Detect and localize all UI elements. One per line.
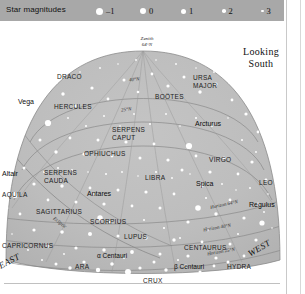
star-alpha-centauri [125,269,131,275]
legend-label-1: 1 [189,6,193,16]
magnitude-dot-0 [140,8,146,14]
page-title: Looking South [243,46,279,70]
sky-dome-shape [6,51,280,274]
star-antares [97,215,102,220]
star-vega [45,120,51,126]
star-spica [195,205,201,211]
sky-chart: Looking South Zenith 64°N 40°N 25°N Hori… [0,22,305,294]
legend-item-magnitude-minus1: –1 [96,0,115,22]
magnitude-dot-3 [261,10,264,13]
frame-divider-right-outer [300,0,301,294]
star-arcturus [186,143,192,149]
title-line-looking: Looking [243,46,279,57]
star-chart-page: Star magnitudes –1 0 1 2 3 [0,0,305,294]
title-line-south: South [243,58,279,70]
magnitude-dot-2 [222,9,226,13]
legend-label-2: 2 [229,6,233,16]
star-beta-centauri [171,274,176,279]
legend-label-0: 0 [149,6,153,16]
magnitude-dot-1 [181,9,186,14]
star-regulus [259,220,264,225]
star-altair [12,192,18,198]
frame-divider-bottom [4,283,280,284]
legend-label-minus1: –1 [106,6,115,16]
legend-title: Star magnitudes [6,5,66,14]
legend-item-magnitude-3: 3 [261,0,271,22]
legend-label-3: 3 [267,6,271,16]
legend-item-magnitude-0: 0 [140,0,153,22]
legend-item-magnitude-1: 1 [181,0,193,22]
legend-item-magnitude-2: 2 [222,0,233,22]
magnitude-dot-minus1 [96,8,103,15]
frame-divider-right [286,0,287,294]
star-magnitude-legend: Star magnitudes –1 0 1 2 3 [0,0,284,22]
